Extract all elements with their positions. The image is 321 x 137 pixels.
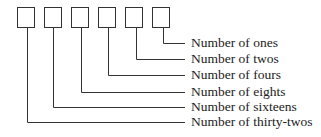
label-thirty-twos: Number of thirty-twos	[191, 115, 312, 129]
connector-ones	[164, 28, 186, 44]
connector-fours	[109, 28, 186, 76]
label-ones: Number of ones	[191, 36, 278, 50]
box-thirty-twos	[18, 8, 35, 28]
label-sixteens: Number of sixteens	[191, 100, 297, 114]
label-twos: Number of twos	[191, 52, 279, 66]
box-fours	[99, 8, 116, 28]
box-ones	[153, 8, 170, 28]
label-eights: Number of eights	[191, 85, 285, 99]
box-sixteens	[45, 8, 62, 28]
box-twos	[126, 8, 143, 28]
box-eights	[72, 8, 89, 28]
label-fours: Number of fours	[191, 68, 281, 82]
connector-sixteens	[54, 28, 186, 108]
connector-eights	[82, 28, 186, 93]
